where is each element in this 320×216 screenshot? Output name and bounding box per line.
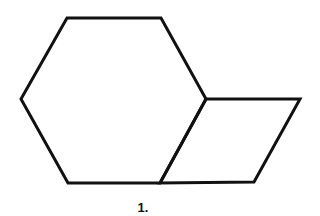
figure-canvas bbox=[0, 0, 320, 216]
hexagon-shape bbox=[21, 18, 206, 183]
rhombus-shape bbox=[160, 99, 300, 183]
figure-label: 1. bbox=[126, 200, 160, 215]
